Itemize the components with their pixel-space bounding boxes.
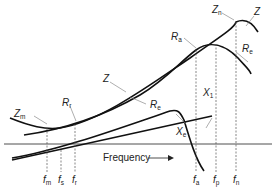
label-fs: fs bbox=[58, 174, 65, 186]
label-re-mid: Re bbox=[150, 99, 161, 111]
frequency-label: Frequency bbox=[103, 152, 150, 163]
label-fa: fa bbox=[193, 174, 200, 186]
z-curve bbox=[10, 20, 258, 128]
label-re-right: Re bbox=[242, 43, 253, 55]
x1-leader bbox=[206, 118, 212, 128]
label-xe: Xe bbox=[175, 126, 187, 138]
label-z-mid: Z bbox=[102, 73, 110, 84]
label-z-right: Z bbox=[253, 6, 261, 17]
zm-leader bbox=[34, 116, 47, 124]
z-leader bbox=[110, 82, 126, 92]
re-leader bbox=[130, 97, 146, 104]
label-x1: X1 bbox=[202, 87, 214, 99]
label-fm: fm bbox=[43, 174, 51, 186]
label-zm: Zm bbox=[13, 108, 26, 120]
label-fr: fr bbox=[72, 174, 78, 186]
impedance-frequency-diagram: Zm Rr Z Re Ra Zn Z Re X1 Xe Frequency fm… bbox=[0, 0, 276, 189]
label-zn: Zn bbox=[211, 4, 222, 16]
zn-leader bbox=[222, 13, 234, 20]
label-rr: Rr bbox=[62, 97, 72, 109]
ra-leader bbox=[184, 38, 196, 48]
label-fn: fn bbox=[233, 174, 240, 186]
frequency-arrow-icon bbox=[168, 155, 174, 161]
label-ra: Ra bbox=[171, 31, 182, 43]
label-fp: fp bbox=[213, 174, 220, 187]
